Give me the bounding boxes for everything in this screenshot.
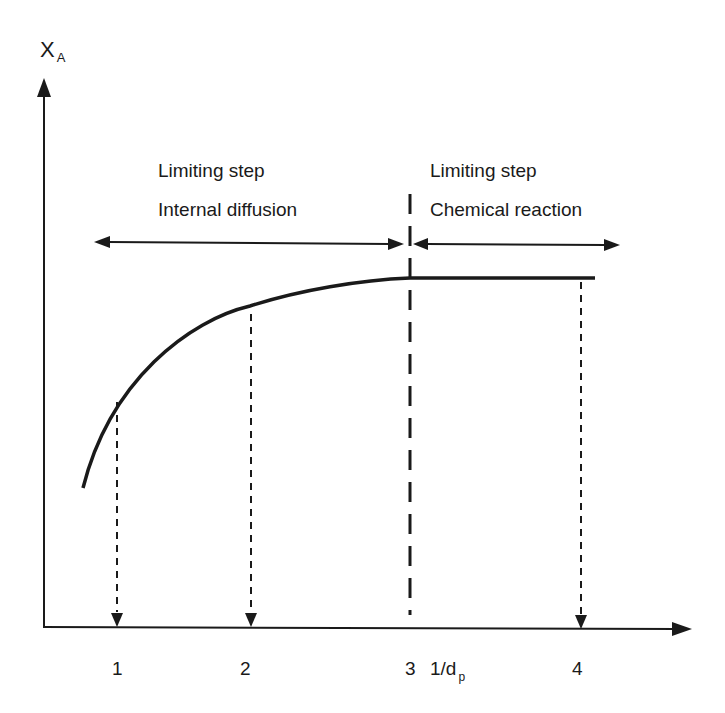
tick-label-4: 4	[572, 658, 583, 680]
conversion-curve	[83, 278, 595, 488]
y-axis-label: XA	[40, 37, 65, 63]
x-label-main: 1/d	[430, 658, 456, 679]
y-axis	[37, 78, 51, 627]
right-region-line2: Chemical reaction	[430, 199, 582, 221]
y-label-main: X	[40, 37, 55, 62]
x-axis-label: 1/dp	[430, 658, 465, 680]
internal-diffusion-range-arrow	[94, 236, 404, 250]
right-region-line1: Limiting step	[430, 160, 537, 182]
x-axis-arrow-icon	[672, 622, 692, 636]
y-label-sub: A	[57, 50, 66, 65]
drop-line-4	[575, 282, 587, 629]
left-region-line2: Internal diffusion	[158, 199, 297, 221]
x-label-sub: p	[458, 670, 465, 684]
down-arrow-icon	[111, 613, 123, 627]
diagram-canvas	[0, 0, 725, 713]
tick-label-3: 3	[405, 658, 416, 680]
tick-label-2: 2	[240, 658, 251, 680]
down-arrow-icon	[575, 615, 587, 629]
drop-line-1	[111, 402, 123, 627]
y-axis-arrow-icon	[37, 78, 51, 97]
x-axis	[43, 622, 692, 636]
left-region-line1: Limiting step	[158, 160, 265, 182]
down-arrow-icon	[245, 613, 257, 627]
chemical-reaction-range-arrow	[413, 238, 620, 251]
tick-label-1: 1	[112, 658, 123, 680]
drop-line-2	[245, 314, 257, 627]
